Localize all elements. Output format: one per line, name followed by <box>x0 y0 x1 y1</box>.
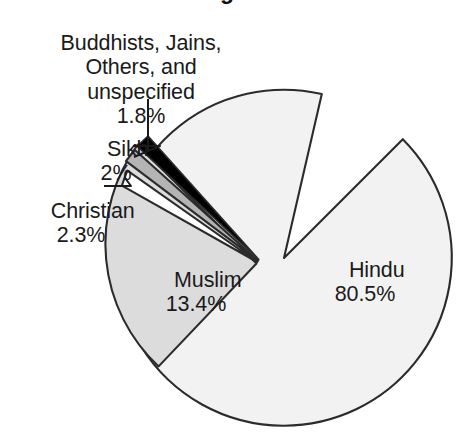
slice-label-muslim-pct: 13.4% <box>140 292 252 317</box>
slice-label-hindu: Hindu80.5% <box>313 233 417 356</box>
slice-label-hindu-pct: 80.5% <box>313 282 417 307</box>
slice-label-christian-pct: 2.3% <box>6 223 156 248</box>
slice-label-hindu-name: Hindu <box>349 258 405 282</box>
slice-label-christian-name: Christian <box>51 199 135 223</box>
slice-label-sikh-name: Sikh <box>107 137 148 161</box>
pie-chart-figure: Religions Buddhists, Jains, Others, and … <box>0 0 459 444</box>
slice-label-others-name: Buddhists, Jains, Others, and unspecifie… <box>61 31 222 104</box>
slice-label-muslim: Muslim13.4% <box>140 243 252 366</box>
slice-label-muslim-name: Muslim <box>174 268 241 292</box>
slice-label-christian: Christian2.3% <box>6 174 156 297</box>
